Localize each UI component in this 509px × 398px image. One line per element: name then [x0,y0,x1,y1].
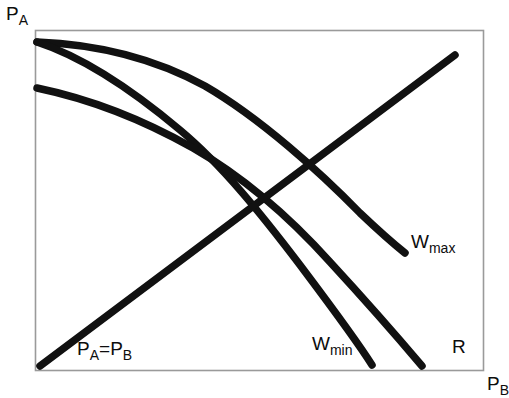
curve-label-pb-base: P [110,338,123,359]
curve-label-wmin: Wmin [312,334,353,353]
y-axis-label: PA [6,4,28,23]
y-axis-label-base: P [6,3,19,24]
curve-label-pa-subscript: A [90,347,99,363]
x-axis-label-base: P [487,373,500,394]
curve-label-wmin-base: W [312,333,330,354]
curve-label-wmax: Wmax [411,232,455,251]
curve-label-r: R [452,337,466,356]
curve-label-pb-subscript: B [123,347,132,363]
x-axis-label: PB [487,374,509,393]
curve-label-pa-base: P [77,338,90,359]
curve-label-r-base: R [452,336,466,357]
curve-label-equals-sign: = [99,338,110,359]
y-axis-label-subscript: A [19,12,28,28]
curve-label-wmin-subscript: min [330,342,353,358]
curve-label-pa-equals-pb: PA=PB [77,339,132,358]
curve-label-wmax-base: W [411,231,429,252]
x-axis-label-subscript: B [500,382,509,398]
curve-label-wmax-subscript: max [429,240,455,256]
